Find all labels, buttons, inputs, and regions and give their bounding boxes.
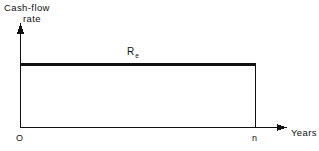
y-axis-label: Cash-flow rate bbox=[4, 2, 60, 24]
y-axis-label-line2: rate bbox=[4, 13, 60, 24]
series-subscript: e bbox=[135, 52, 139, 59]
x-axis-label: Years bbox=[291, 127, 317, 138]
x-tick-label-n: n bbox=[252, 133, 257, 144]
x-tick-label-origin: O bbox=[16, 133, 23, 144]
y-axis-label-line1: Cash-flow bbox=[4, 2, 60, 13]
series-label-R: Re bbox=[127, 46, 138, 58]
cash-flow-rate-diagram: Cash-flow rate Re O n Years bbox=[0, 0, 319, 151]
series-symbol: R bbox=[127, 46, 135, 57]
